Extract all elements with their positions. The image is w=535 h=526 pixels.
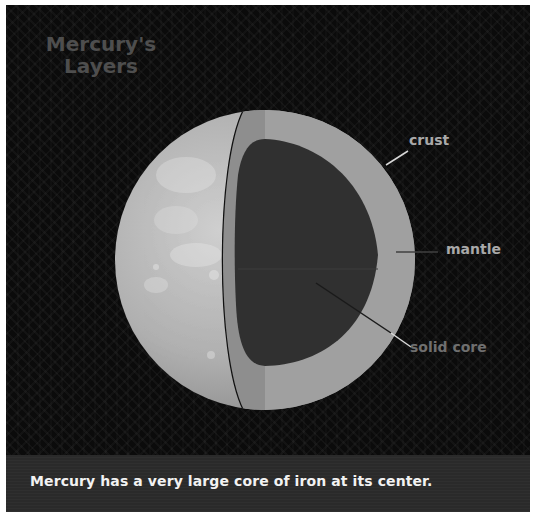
mantle-label: mantle (446, 241, 501, 257)
diagram-frame: Mercury's Layers (6, 5, 530, 512)
core-label: solid core (410, 339, 487, 355)
crust-label: crust (409, 132, 449, 148)
caption-text: Mercury has a very large core of iron at… (30, 473, 433, 489)
mercury-cutaway-illustration (6, 5, 530, 455)
crust-leader-line (386, 151, 408, 165)
caption-band: Mercury has a very large core of iron at… (6, 455, 530, 512)
